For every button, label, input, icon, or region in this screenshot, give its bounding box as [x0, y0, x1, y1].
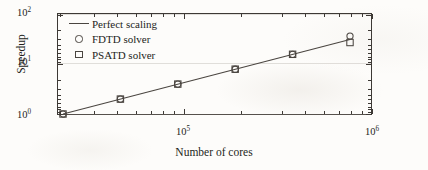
square-marker-icon	[66, 51, 92, 58]
y-tick-label-100: 102	[17, 8, 31, 19]
y-major-tick-right	[366, 15, 371, 16]
y-minor-tick	[58, 89, 61, 90]
y-minor-tick	[58, 99, 61, 100]
y-minor-tick-right	[368, 99, 371, 100]
y-minor-tick-right	[368, 103, 371, 104]
x-minor-tick	[324, 111, 325, 114]
y-minor-tick-right	[368, 109, 371, 110]
x-minor-tick-top	[305, 14, 306, 17]
x-minor-tick-top	[351, 14, 352, 17]
y-minor-tick-right	[368, 89, 371, 90]
x-minor-tick	[241, 111, 242, 114]
x-tick-label-1e5: 105	[176, 127, 190, 138]
x-minor-tick	[94, 111, 95, 114]
circle-marker-icon	[66, 35, 92, 42]
x-minor-tick-top	[163, 14, 164, 17]
x-axis-title: Number of cores	[0, 146, 428, 158]
legend-label: Perfect scaling	[92, 18, 157, 30]
y-minor-tick	[58, 39, 61, 40]
legend-label: PSATD solver	[92, 49, 155, 61]
x-minor-tick-top	[282, 14, 283, 17]
y-minor-tick	[58, 59, 61, 60]
y-minor-tick-right	[368, 95, 371, 96]
x-minor-tick	[339, 111, 340, 114]
y-minor-tick-right	[368, 107, 371, 108]
y-minor-tick-right	[368, 62, 371, 63]
x-minor-tick	[151, 111, 152, 114]
y-minor-tick	[58, 95, 61, 96]
chart-legend: Perfect scaling FDTD solver PSATD solver	[66, 17, 157, 61]
x-minor-tick	[351, 111, 352, 114]
y-minor-tick-right	[368, 39, 371, 40]
x-minor-tick	[174, 111, 175, 114]
x-minor-tick	[282, 111, 283, 114]
y-minor-tick	[58, 53, 61, 54]
x-minor-tick	[60, 111, 61, 114]
y-minor-tick	[58, 49, 61, 50]
y-minor-tick	[58, 107, 61, 108]
y-minor-tick	[58, 30, 61, 31]
x-minor-tick	[305, 111, 306, 114]
x-minor-tick	[136, 111, 137, 114]
y-minor-tick	[58, 80, 61, 81]
circle-marker-icon	[347, 33, 353, 39]
y-major-tick	[58, 114, 63, 115]
x-minor-tick-top	[339, 14, 340, 17]
x-major-tick-top	[372, 14, 373, 19]
y-minor-tick-right	[368, 49, 371, 50]
x-minor-tick-top	[241, 14, 242, 17]
line-key-icon	[66, 23, 92, 24]
y-minor-tick-right	[368, 57, 371, 58]
x-minor-tick-top	[174, 14, 175, 17]
x-major-tick	[184, 109, 185, 114]
y-minor-tick-right	[368, 112, 371, 113]
y-major-tick	[58, 64, 63, 65]
x-tick-label-1e6: 106	[365, 127, 379, 138]
x-minor-tick	[163, 111, 164, 114]
x-major-tick-top	[184, 14, 185, 19]
legend-entry-psatd-solver: PSATD solver	[66, 48, 157, 61]
scaling-chart-figure: Speedup 102 101 100 105 106 Number of co…	[0, 0, 428, 170]
y-minor-tick	[58, 62, 61, 63]
y-minor-tick-right	[368, 30, 371, 31]
x-minor-tick	[117, 111, 118, 114]
y-minor-tick-right	[368, 80, 371, 81]
y-axis-title: Speedup	[15, 9, 27, 99]
y-tick-label-10: 101	[17, 57, 31, 68]
y-major-tick-right	[366, 64, 371, 65]
x-minor-tick-top	[362, 14, 363, 17]
y-minor-tick-right	[368, 59, 371, 60]
legend-label: FDTD solver	[92, 33, 150, 45]
y-minor-tick-right	[368, 53, 371, 54]
x-major-tick	[372, 109, 373, 114]
x-minor-tick	[362, 111, 363, 114]
y-tick-label-1: 100	[17, 110, 31, 121]
y-minor-tick	[58, 103, 61, 104]
x-minor-tick-top	[324, 14, 325, 17]
y-minor-tick	[58, 45, 61, 46]
y-minor-tick	[58, 57, 61, 58]
y-minor-tick-right	[368, 45, 371, 46]
legend-entry-perfect-scaling: Perfect scaling	[66, 17, 157, 30]
x-minor-tick-top	[60, 14, 61, 17]
y-major-tick-right	[366, 114, 371, 115]
legend-entry-fdtd-solver: FDTD solver	[66, 33, 157, 46]
